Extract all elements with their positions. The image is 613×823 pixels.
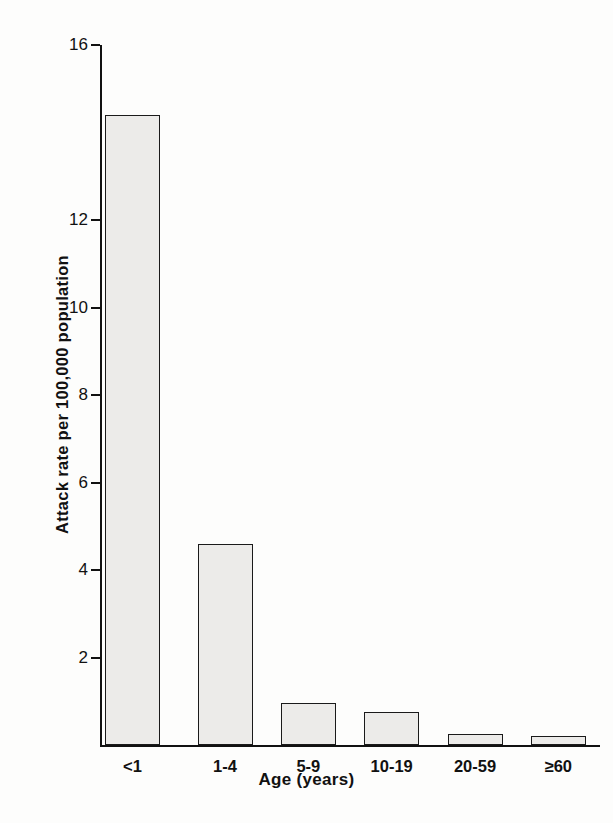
bar-chart-figure: Attack rate per 100,000 population 24681… — [0, 0, 613, 823]
bar — [531, 736, 586, 745]
bar — [448, 734, 503, 745]
y-axis-tick — [91, 44, 100, 46]
y-axis-line — [100, 45, 102, 745]
y-axis-tick-label: 10 — [46, 298, 88, 318]
y-axis-tick — [91, 569, 100, 571]
bar — [364, 712, 419, 745]
x-axis-label: Age (years) — [0, 770, 613, 790]
y-axis-tick — [91, 657, 100, 659]
bar — [198, 544, 253, 745]
y-axis-tick-label: 6 — [46, 473, 88, 493]
y-axis-tick-label: 4 — [46, 560, 88, 580]
y-axis-tick-label: 8 — [46, 385, 88, 405]
y-axis-tick — [91, 482, 100, 484]
y-axis-tick — [91, 394, 100, 396]
x-axis-line — [100, 745, 600, 747]
y-axis-tick — [91, 219, 100, 221]
bar — [105, 115, 160, 745]
bar — [281, 703, 336, 745]
y-axis-tick — [91, 307, 100, 309]
y-axis-tick-label: 16 — [46, 35, 88, 55]
plot-area: 2468101216 <11-45-910-1920-59≥60 — [100, 45, 600, 745]
y-axis-tick-label: 12 — [46, 210, 88, 230]
y-axis-tick-label: 2 — [46, 648, 88, 668]
